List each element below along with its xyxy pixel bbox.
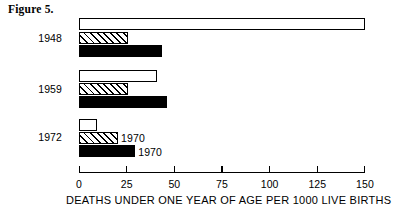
annotation-1970-solid: 1970 [138,146,162,158]
x-tick-label-0: 0 [76,178,82,190]
x-tick-label-125: 125 [308,178,326,190]
x-tick-125 [317,166,318,173]
bar-1948-white [79,18,365,30]
annotation-1970-hatched: 1970 [121,132,145,144]
category-label-1948: 1948 [18,32,62,44]
bar-chart: 1948 1959 1972 1970 1970 025507510012515… [0,0,395,217]
x-tick-label-50: 50 [168,178,180,190]
x-tick-150 [364,166,365,173]
bar-1959-white [79,70,157,82]
bar-1948-solid [79,45,162,57]
bar-1959-solid [79,96,167,108]
x-axis-title: DEATHS UNDER ONE YEAR OF AGE PER 1000 LI… [66,194,391,206]
x-tick-label-150: 150 [356,178,374,190]
bar-1972-solid [79,145,135,157]
x-tick-label-100: 100 [261,178,279,190]
x-tick-75 [221,166,222,173]
x-tick-0 [79,166,80,173]
category-label-1972: 1972 [18,131,62,143]
bar-1972-white [79,119,97,131]
bar-1959-hatched [79,83,128,95]
x-tick-label-75: 75 [216,178,228,190]
bar-1972-hatched [79,132,118,144]
x-tick-50 [174,166,175,173]
bar-1948-hatched [79,32,128,44]
x-tick-25 [126,166,127,173]
category-label-1959: 1959 [18,83,62,95]
x-tick-100 [269,166,270,173]
x-tick-label-25: 25 [121,178,133,190]
